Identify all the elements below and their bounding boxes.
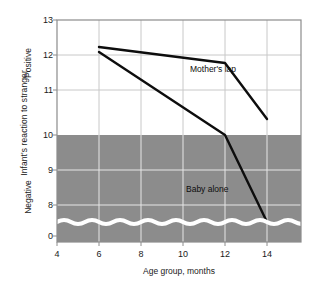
gray-shaded-band: [57, 135, 301, 242]
chart-figure: Infant's reaction to stranger Positive N…: [0, 0, 320, 284]
series-label-baby-alone: Baby alone: [186, 184, 229, 194]
series-label-mothers-lap: Mother's lap: [190, 64, 236, 74]
plot-area: [0, 0, 320, 284]
